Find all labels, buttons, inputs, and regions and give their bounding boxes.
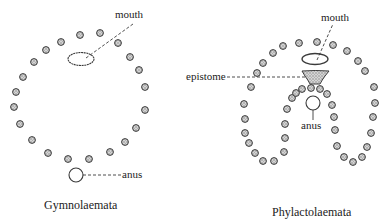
tentacle-icon	[97, 30, 104, 37]
tentacle-icon	[270, 50, 277, 57]
bryozoa-lophophore-diagram	[0, 0, 382, 221]
tentacle-icon	[133, 125, 140, 132]
tentacle-icon	[122, 139, 129, 146]
tentacle-icon	[13, 89, 20, 96]
tentacle-icon	[362, 68, 369, 75]
tentacle-icon	[260, 158, 267, 165]
tentacle-icon	[29, 137, 36, 144]
tentacle-icon	[330, 42, 337, 49]
tentacle-icon	[359, 154, 366, 161]
tentacle-icon	[86, 156, 93, 163]
tentacle-icon	[65, 156, 72, 163]
tentacle-icon	[43, 47, 50, 54]
gymnolaemata-mouth-shape	[68, 53, 94, 66]
tentacle-icon	[314, 39, 321, 46]
tentacle-icon	[58, 39, 65, 46]
tentacle-icon	[355, 58, 362, 65]
tentacle-icon	[331, 114, 338, 121]
tentacle-icon	[293, 90, 300, 97]
diagram-canvas: mouth anus Gymnolaemata mouth epistome a…	[0, 0, 382, 221]
tentacle-icon	[248, 84, 255, 91]
tentacle-icon	[20, 74, 27, 81]
tentacle-icon	[115, 40, 122, 47]
tentacle-icon	[317, 86, 324, 93]
phylactolaemata-anus-label: anus	[301, 120, 321, 131]
tentacle-icon	[296, 40, 303, 47]
tentacle-icon	[271, 158, 278, 165]
tentacle-icon	[299, 86, 306, 93]
tentacle-icon	[45, 150, 52, 157]
gymnolaemata-tentacle-ring	[11, 30, 149, 163]
gymnolaemata-anus-label: anus	[122, 169, 142, 180]
tentacle-icon	[77, 32, 84, 39]
tentacle-icon	[242, 116, 249, 123]
tentacle-icon	[372, 100, 379, 107]
tentacle-icon	[324, 91, 331, 98]
gymnolaemata-caption: Gymnolaemata	[44, 199, 117, 211]
epistome-label: epistome	[186, 71, 226, 82]
tentacle-icon	[246, 140, 253, 147]
tentacle-icon	[371, 84, 378, 91]
gymnolaemata-anus-shape	[69, 168, 83, 182]
tentacle-icon	[350, 159, 357, 166]
tentacle-icon	[308, 85, 315, 92]
tentacle-icon	[260, 60, 267, 67]
tentacle-icon	[127, 54, 134, 61]
tentacle-icon	[242, 130, 249, 137]
phylactolaemata-mouth-shape	[302, 54, 328, 65]
tentacle-icon	[142, 107, 149, 114]
tentacle-icon	[364, 144, 371, 151]
phylactolaemata-caption: Phylactolaemata	[272, 206, 351, 218]
tentacle-icon	[281, 149, 288, 156]
tentacle-icon	[368, 130, 375, 137]
tentacle-icon	[31, 59, 38, 66]
tentacle-icon	[254, 70, 261, 77]
tentacle-icon	[332, 127, 339, 134]
tentacle-icon	[107, 149, 114, 156]
tentacle-icon	[241, 101, 248, 108]
tentacle-icon	[370, 114, 377, 121]
gymnolaemata-mouth-leader	[86, 24, 133, 58]
tentacle-icon	[282, 135, 289, 142]
gymnolaemata-mouth-label: mouth	[115, 9, 143, 20]
phylactolaemata-anus-shape	[306, 96, 320, 110]
tentacle-icon	[17, 121, 24, 128]
tentacle-icon	[329, 102, 336, 109]
tentacle-icon	[11, 104, 18, 111]
tentacle-icon	[142, 84, 149, 91]
tentacle-icon	[344, 48, 351, 55]
tentacle-icon	[341, 154, 348, 161]
tentacle-icon	[284, 106, 291, 113]
epistome-shape	[302, 71, 329, 85]
tentacle-icon	[136, 67, 143, 74]
tentacle-icon	[334, 143, 341, 150]
tentacle-icon	[252, 150, 259, 157]
phylactolaemata-mouth-label: mouth	[321, 12, 349, 23]
tentacle-icon	[280, 43, 287, 50]
tentacle-icon	[282, 121, 289, 128]
